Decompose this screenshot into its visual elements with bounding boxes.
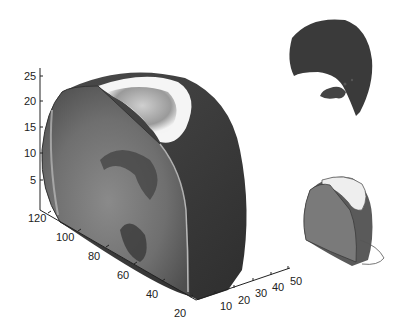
z-tick-labels: 25 20 15 10 5	[24, 70, 36, 186]
svg-text:10: 10	[220, 300, 232, 312]
svg-text:40: 40	[146, 288, 158, 300]
inset-shell-render	[289, 19, 372, 116]
svg-text:10: 10	[24, 147, 36, 159]
svg-text:20: 20	[238, 294, 250, 306]
svg-text:50: 50	[290, 275, 302, 287]
svg-text:120: 120	[28, 212, 46, 224]
svg-text:80: 80	[88, 250, 100, 262]
svg-text:60: 60	[117, 269, 129, 281]
shell-cap	[289, 19, 372, 116]
svg-text:25: 25	[24, 70, 36, 82]
svg-text:20: 20	[24, 95, 36, 107]
svg-text:40: 40	[272, 281, 284, 293]
svg-text:15: 15	[24, 121, 36, 133]
inset-cutaway-render	[304, 177, 384, 267]
svg-text:30: 30	[255, 287, 267, 299]
figure-canvas: 25 20 15 10 5 120 100 80 60 40 20 10 20 …	[0, 0, 407, 330]
svg-text:100: 100	[56, 231, 74, 243]
shell-fragments	[320, 87, 346, 99]
svg-text:20: 20	[174, 307, 186, 319]
svg-text:5: 5	[30, 174, 36, 186]
main-volume-render	[42, 72, 247, 300]
